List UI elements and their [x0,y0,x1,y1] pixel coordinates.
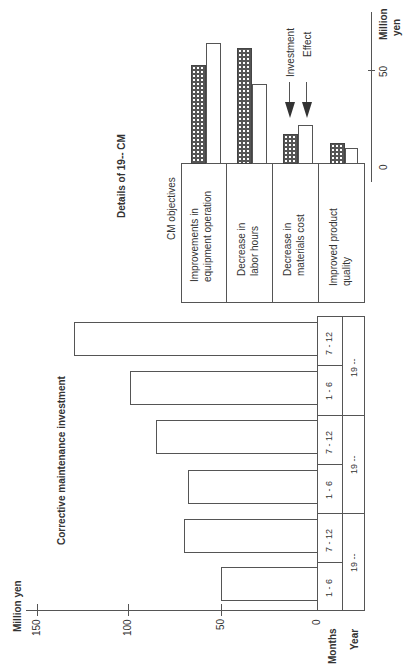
detail-tick-label-0: 0 [378,164,389,170]
objective-cell-4: Improved product quality [318,163,365,303]
bar-investment-equipment [191,65,206,164]
detail-tick-label-50: 50 [378,66,389,77]
objective-cell-2: Decrease in labor hours [226,163,273,303]
main-bar-5 [130,371,318,405]
bar-effect-equipment [206,43,221,164]
objective-4-line-1: Improved product [327,208,340,286]
year-cell-2: 19 -- [342,415,365,514]
main-tick-150 [37,604,38,616]
main-tick-50 [221,604,222,616]
objective-cell-1: Improvements in equipment operation [181,163,227,303]
legend-effect-arrow-icon [302,102,312,118]
bar-investment-quality [330,143,345,164]
objective-1-line-1: Improvements in [188,191,201,282]
legend-effect-label: Effect [302,32,313,57]
main-bar-6 [74,322,318,356]
bar-effect-labor [252,84,267,164]
bar-investment-materials [283,134,298,164]
main-bar-2 [184,519,318,553]
legend-effect-arrow-shaft [306,82,307,104]
months-cell-5: 1 - 6 [317,365,343,416]
months-cell-3: 1 - 6 [317,464,343,514]
main-bar-4 [156,420,318,454]
objective-2-line-2: labor hours [248,223,261,276]
legend-investment-arrow-shaft [289,82,290,104]
objective-2-line-1: Decrease in [235,223,248,276]
main-tick-label-50: 50 [215,619,226,630]
main-tick-label-150: 150 [31,619,42,636]
objective-1-line-2: equipment operation [201,191,214,282]
detail-value-axis [371,12,372,182]
objective-3-line-1: Decrease in [281,214,294,276]
detail-axis-label-1: Million [378,8,389,40]
months-cell-2: 7 - 12 [317,513,343,563]
objective-3-line-2: materials cost [294,214,307,276]
main-tick-100 [128,604,129,616]
year-cell-3: 19 -- [342,316,365,416]
objective-4-line-2: quality [340,208,353,286]
detail-tick-50 [368,70,375,71]
row-label-year: Year [349,629,360,650]
main-tick-label-0: 0 [311,619,322,625]
row-label-months: Months [327,628,338,664]
main-value-axis [26,610,318,611]
detail-chart-title: Details of 19-- CM [116,134,127,218]
bar-investment-labor [237,48,252,164]
main-tick-label-100: 100 [122,619,133,636]
year-cell-1: 19 -- [342,513,365,611]
legend-investment-arrow-icon [285,102,295,118]
main-bar-1 [221,567,318,601]
main-bar-3 [188,470,318,504]
legend-investment-label: Investment [285,28,296,77]
objective-cell-3: Decrease in materials cost [272,163,319,303]
bar-effect-materials [298,125,313,164]
detail-axis-label-2: yen [391,19,402,36]
main-chart-title: Corrective maintenance investment [56,376,67,545]
main-axis-label: Million yen [12,580,23,632]
months-cell-6: 7 - 12 [317,316,343,366]
months-cell-4: 7 - 12 [317,415,343,465]
bar-effect-quality [345,148,358,164]
cm-objectives-header: CM objectives [166,177,177,240]
months-cell-1: 1 - 6 [317,562,343,611]
